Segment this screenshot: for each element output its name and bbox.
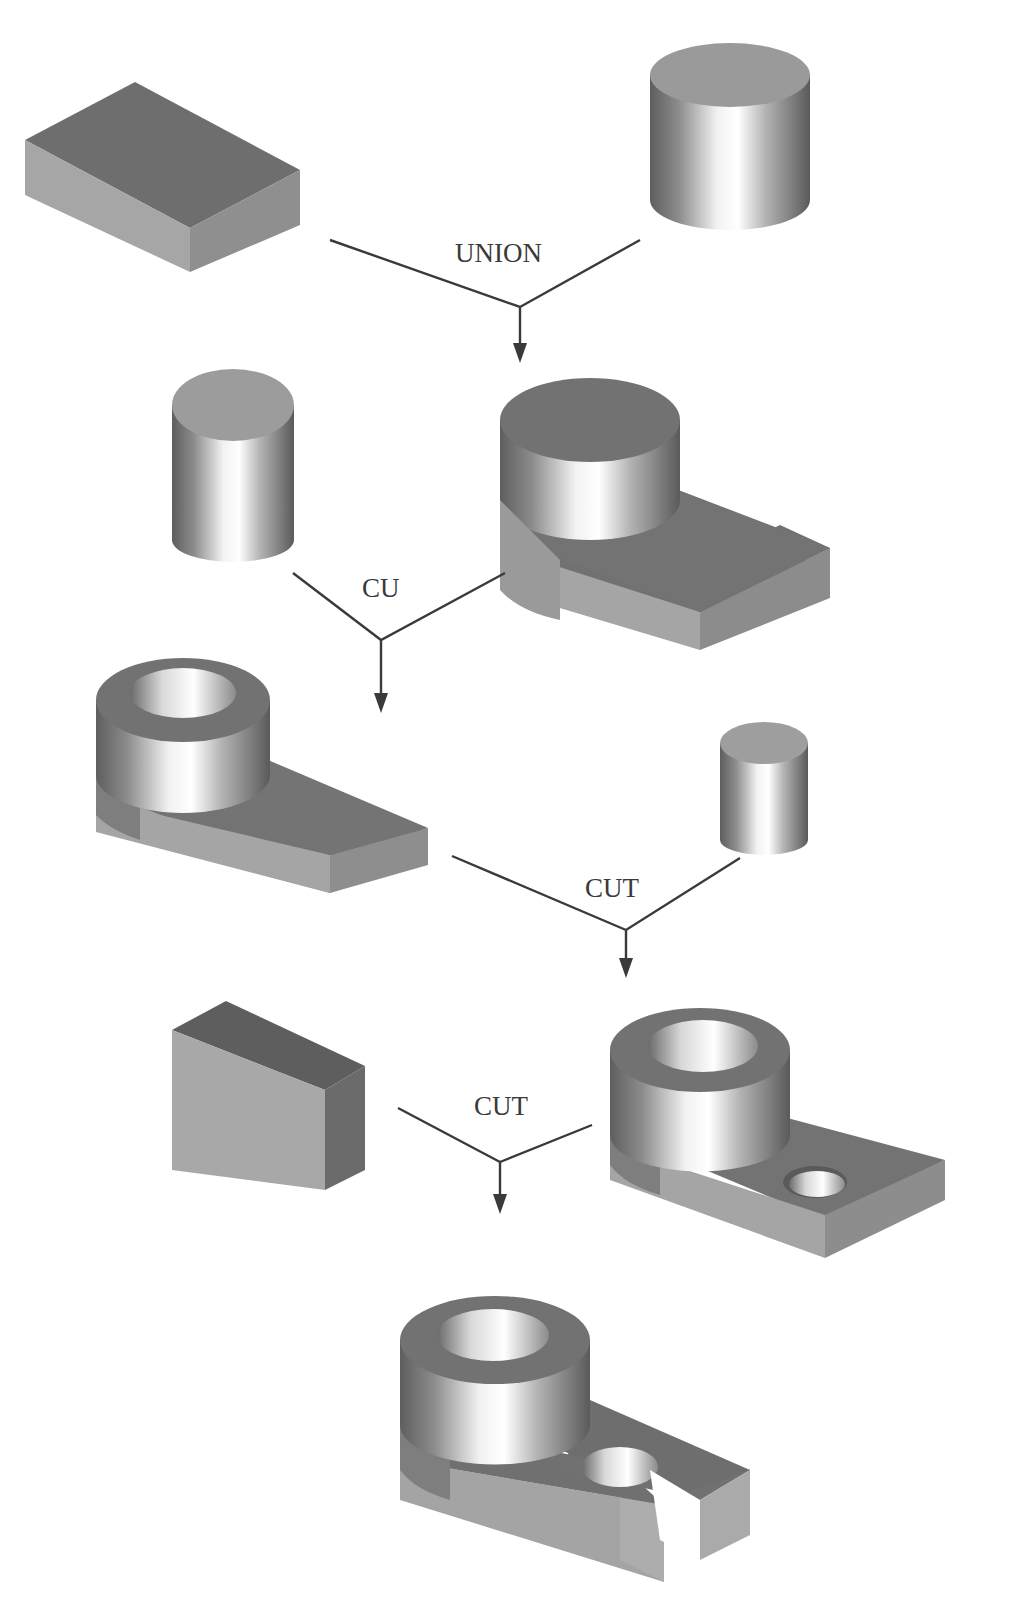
box-2 [172, 1001, 365, 1190]
arrow-down-icon [513, 343, 527, 363]
operation-label-cu: CU [362, 573, 400, 603]
cu-operation: CU [293, 573, 505, 713]
connector-lines [452, 856, 740, 960]
arrow-down-icon [374, 693, 388, 713]
cylinder-1 [650, 43, 810, 230]
csg-diagram: UNION CU CUT CUT [0, 0, 1011, 1612]
arrow-down-icon [493, 1194, 507, 1214]
operation-label-cut: CUT [585, 873, 640, 903]
operation-label-union: UNION [455, 238, 542, 268]
cut-operation-2: CUT [398, 1091, 592, 1214]
box-1 [25, 82, 300, 272]
cylinder-2 [172, 369, 294, 562]
union-operation: UNION [330, 238, 640, 363]
arrow-down-icon [619, 958, 633, 978]
connector-lines [398, 1108, 592, 1196]
final-part [400, 1296, 750, 1582]
operation-label-cut: CUT [474, 1091, 529, 1121]
holed-part [610, 1008, 945, 1258]
union-result [500, 378, 830, 650]
cut-operation-1: CUT [452, 856, 740, 978]
cylinder-3 [720, 722, 808, 855]
